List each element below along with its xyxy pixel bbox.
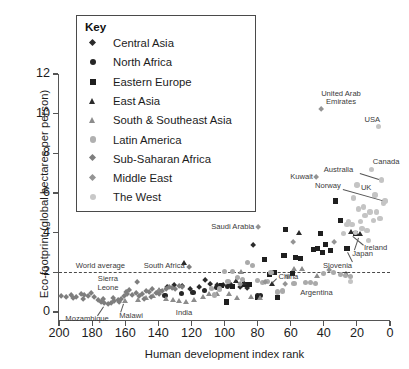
data-point [291,266,297,271]
data-label: Canada [373,158,400,167]
data-point [163,296,169,301]
data-point [280,288,285,293]
data-point [341,231,346,236]
data-label: Kuwait [290,173,313,182]
data-point [313,281,318,286]
data-point [225,279,230,284]
data-point [281,253,286,258]
data-point [382,198,387,203]
data-point [230,269,235,274]
legend-box: Key Central AsiaNorth AfricaEastern Euro… [76,15,256,212]
data-point [80,296,86,302]
data-label: India [176,309,192,318]
data-point [333,198,338,203]
data-label: South Africa [144,262,185,271]
data-point [275,295,280,300]
data-point [331,239,337,245]
data-point [296,230,302,235]
data-point [257,295,263,300]
legend-item-label: Eastern Europe [113,76,192,88]
legend-item-label: North Africa [113,56,172,68]
data-point [344,222,349,227]
data-point [238,269,244,274]
data-point [344,246,349,251]
data-point [247,282,252,287]
data-label: China [278,273,298,282]
data-point [369,167,374,172]
data-point [191,297,197,302]
data-point [268,270,273,275]
data-label: SierraLeone [97,275,118,292]
data-label: Australia [324,166,354,175]
data-point [183,299,189,304]
legend-item-label: Latin America [113,134,181,146]
data-label: Malawi [119,312,143,321]
data-point [313,174,319,180]
data-point [298,256,303,261]
data-label: Norway [315,182,341,191]
data-point [250,243,256,249]
data-point [212,292,217,297]
data-point [170,297,176,302]
data-label: Saudi Arabia [211,223,254,232]
data-point [376,124,381,129]
data-point [354,182,359,187]
data-label: United ArabEmirates [321,90,361,107]
data-point [226,291,232,296]
data-point [248,294,254,299]
eco-footprint-scatter-chart: Eco-footprint (global hectares per perso… [0,0,409,369]
data-point [348,279,353,284]
data-point [282,281,288,287]
data-point [377,216,382,221]
data-point [328,248,333,253]
data-point [320,250,325,255]
data-point [134,279,140,285]
data-point [190,290,195,295]
data-point [209,286,214,291]
data-point [179,291,184,296]
data-point [321,271,326,276]
data-point [255,224,261,230]
legend-item-label: Sub-Saharan Africa [113,153,211,165]
data-point [217,286,222,291]
legend-item-label: The West [113,191,161,203]
data-label: Slovenia [323,262,352,271]
legend-item-label: Central Asia [113,37,174,49]
legend-item-label: East Asia [113,95,160,107]
data-label: UK [361,184,372,193]
legend-item-label: South & Southeast Asia [113,114,232,126]
data-point [364,228,369,233]
x-axis-title: Human development index rank [59,348,390,360]
data-point [367,209,372,214]
data-point [70,295,76,301]
data-label: USA [364,116,380,125]
data-point [374,209,379,214]
legend-item-label: Middle East [113,172,172,184]
data-label: World average [76,262,125,271]
data-point [222,269,227,274]
data-point [200,294,206,299]
data-point [262,257,267,262]
data-label: Argentina [300,289,333,298]
data-point [351,195,356,200]
data-point [290,239,296,245]
data-point [323,242,328,247]
data-label: Mozambique [65,315,108,324]
leader-line [359,173,378,180]
data-point [379,177,384,182]
data-point [349,222,354,227]
data-point [371,218,376,223]
legend-title: Key [85,20,106,33]
data-point [314,273,320,278]
data-point [250,263,255,268]
data-point [318,231,323,236]
data-point [230,284,235,289]
data-point [358,219,363,224]
data-label: Ireland [364,244,387,253]
data-point [234,295,240,300]
data-point [361,204,366,209]
data-point [224,299,229,304]
data-point [186,264,192,270]
data-point [176,298,182,303]
data-point [299,266,305,271]
